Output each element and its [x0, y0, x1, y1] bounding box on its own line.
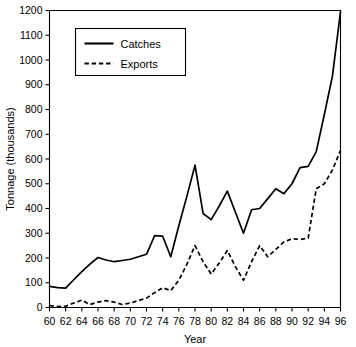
legend-label-catches: Catches — [121, 38, 162, 50]
x-tick-label: 74 — [157, 315, 169, 327]
y-tick-label: 1100 — [20, 29, 43, 41]
x-tick-label: 88 — [270, 315, 282, 327]
x-tick-label: 86 — [254, 315, 266, 327]
y-tick-label: 1200 — [19, 4, 43, 16]
y-tick-label: 400 — [25, 202, 43, 214]
y-tick-label: 0 — [37, 301, 43, 313]
x-tick-label: 66 — [92, 315, 104, 327]
x-tick-label: 76 — [173, 315, 185, 327]
x-tick-label: 90 — [286, 315, 298, 327]
x-tick-label: 78 — [189, 315, 201, 327]
x-tick-label: 72 — [141, 315, 153, 327]
x-tick-label: 84 — [238, 315, 250, 327]
x-tick-label: 68 — [108, 315, 120, 327]
x-tick-label: 96 — [335, 315, 347, 327]
y-tick-label: 800 — [25, 103, 43, 115]
x-tick-label: 80 — [205, 315, 217, 327]
legend-label-exports: Exports — [121, 58, 159, 70]
chart-canvas: 0100200300400500600700800900100011001200… — [0, 0, 356, 347]
x-axis-title: Year — [184, 333, 207, 345]
x-tick-label: 92 — [302, 315, 314, 327]
y-tick-label: 600 — [25, 153, 43, 165]
x-tick-label: 82 — [221, 315, 233, 327]
y-tick-label: 1000 — [19, 54, 43, 66]
y-axis-title: Tonnage (thousands) — [4, 107, 16, 210]
y-tick-label: 200 — [25, 252, 43, 264]
y-tick-label: 500 — [25, 177, 43, 189]
y-tick-label: 900 — [25, 78, 43, 90]
x-tick-label: 60 — [44, 315, 56, 327]
y-tick-label: 300 — [25, 227, 43, 239]
x-tick-label: 70 — [124, 315, 136, 327]
line-chart-figure: 0100200300400500600700800900100011001200… — [0, 0, 356, 347]
y-tick-label: 700 — [25, 128, 43, 140]
x-tick-label: 64 — [76, 315, 88, 327]
x-tick-label: 94 — [318, 315, 330, 327]
x-tick-label: 62 — [60, 315, 72, 327]
y-tick-label: 100 — [25, 276, 43, 288]
